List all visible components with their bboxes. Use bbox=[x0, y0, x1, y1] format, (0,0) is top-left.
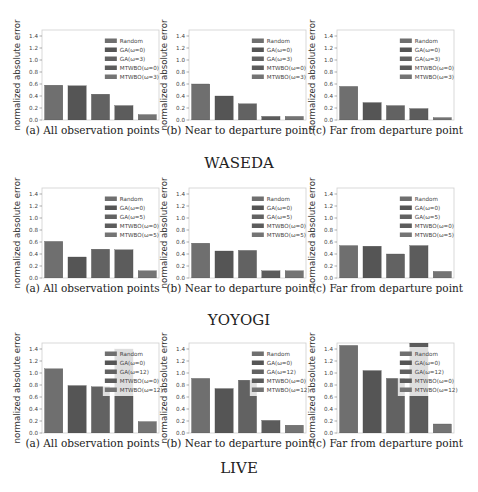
legend-swatch bbox=[400, 352, 412, 357]
legend-swatch bbox=[400, 57, 412, 62]
legend-label: GA(ω=0) bbox=[267, 360, 292, 366]
panel-caption: (a) All observation points bbox=[25, 282, 159, 294]
legend-label: MTWBO(ω=5) bbox=[267, 232, 306, 238]
y-tick-label: 0.8 bbox=[324, 382, 333, 388]
legend-label: GA(ω=0) bbox=[415, 205, 440, 211]
legend-swatch bbox=[105, 388, 117, 393]
y-tick-label: 1.4 bbox=[324, 346, 333, 352]
bar-mtwbo-3 bbox=[285, 116, 303, 120]
legend-label: MTWBO(ω=3) bbox=[267, 74, 306, 80]
chart-panel-yoyogi-c: 0.00.20.40.60.81.01.21.4normalized absol… bbox=[307, 177, 464, 294]
legend-label: MTWBO(ω=5) bbox=[415, 232, 454, 238]
legend-swatch bbox=[252, 361, 264, 366]
y-tick-label: 1.0 bbox=[176, 57, 185, 63]
y-tick-label: 1.4 bbox=[29, 191, 38, 197]
panel-caption: (a) All observation points bbox=[25, 124, 159, 136]
panel-caption: (c) Far from departure point bbox=[312, 124, 464, 136]
y-tick-label: 0.6 bbox=[324, 81, 333, 87]
y-tick-label: 1.2 bbox=[29, 358, 38, 364]
y-tick-label: 0.6 bbox=[29, 239, 38, 245]
legend-swatch bbox=[400, 361, 412, 366]
legend-label: GA(ω=5) bbox=[120, 214, 145, 220]
legend: RandomGA(ω=0)GA(ω=3)MTWBO(ω=0)MTWBO(ω=3) bbox=[250, 34, 306, 83]
bar-mtwbo-0 bbox=[262, 271, 280, 278]
y-tick-label: 1.4 bbox=[176, 191, 185, 197]
bar-mtwbo-3 bbox=[138, 115, 156, 120]
y-tick-label: 0.8 bbox=[176, 382, 185, 388]
y-tick-label: 1.4 bbox=[324, 33, 333, 39]
legend-swatch bbox=[252, 66, 264, 71]
y-tick-label: 0.2 bbox=[324, 263, 333, 269]
chart-panel-live-b: 0.00.20.40.60.81.01.21.4normalized absol… bbox=[159, 332, 313, 449]
legend-swatch bbox=[252, 370, 264, 375]
legend-swatch bbox=[105, 352, 117, 357]
legend-label: MTWBO(ω=12) bbox=[415, 387, 458, 393]
legend: RandomGA(ω=0)GA(ω=5)MTWBO(ω=0)MTWBO(ω=5) bbox=[250, 192, 306, 241]
y-tick-label: 0.4 bbox=[176, 93, 185, 99]
legend-swatch bbox=[105, 361, 117, 366]
legend-swatch bbox=[105, 370, 117, 375]
bar-ga-0 bbox=[215, 251, 233, 278]
bar-mtwbo-0 bbox=[115, 106, 133, 120]
legend-label: GA(ω=12) bbox=[267, 369, 296, 375]
y-axis-label: normalized absolute error bbox=[307, 332, 317, 443]
legend-label: GA(ω=3) bbox=[415, 56, 440, 62]
bar-mtwbo-12 bbox=[433, 424, 451, 433]
bar-ga-0 bbox=[68, 257, 86, 278]
legend-swatch bbox=[252, 388, 264, 393]
y-tick-label: 1.2 bbox=[324, 358, 333, 364]
panel-caption: (c) Far from departure point bbox=[312, 282, 464, 294]
legend-swatch bbox=[400, 388, 412, 393]
legend: RandomGA(ω=0)GA(ω=12)MTWBO(ω=0)MTWBO(ω=1… bbox=[398, 347, 458, 396]
legend-swatch bbox=[400, 48, 412, 53]
legend-swatch bbox=[105, 233, 117, 238]
legend-label: GA(ω=3) bbox=[267, 56, 292, 62]
y-tick-label: 0.8 bbox=[324, 227, 333, 233]
legend-swatch bbox=[105, 75, 117, 80]
bar-ga-5 bbox=[238, 250, 256, 278]
legend-label: GA(ω=0) bbox=[267, 47, 292, 53]
legend-label: MTWBO(ω=0) bbox=[120, 65, 159, 71]
legend-swatch bbox=[400, 370, 412, 375]
legend: RandomGA(ω=0)GA(ω=5)MTWBO(ω=0)MTWBO(ω=5) bbox=[398, 192, 454, 241]
legend-label: Random bbox=[267, 351, 290, 357]
legend-swatch bbox=[400, 224, 412, 229]
legend-label: GA(ω=0) bbox=[267, 205, 292, 211]
y-axis-label: normalized absolute error bbox=[12, 177, 22, 288]
group-title-live: LIVE bbox=[220, 459, 258, 477]
y-tick-label: 1.2 bbox=[176, 203, 185, 209]
legend-swatch bbox=[252, 206, 264, 211]
legend-swatch bbox=[400, 66, 412, 71]
legend-swatch bbox=[252, 48, 264, 53]
legend-swatch bbox=[105, 39, 117, 44]
bar-ga-3 bbox=[91, 94, 109, 120]
panel-caption: (c) Far from departure point bbox=[312, 437, 464, 449]
chart-panel-waseda-c: 0.00.20.40.60.81.01.21.4normalized absol… bbox=[307, 19, 464, 136]
panel-caption: (b) Near to departure point bbox=[166, 437, 313, 449]
y-tick-label: 0.8 bbox=[29, 382, 38, 388]
legend-label: GA(ω=5) bbox=[267, 214, 292, 220]
y-axis-label: normalized absolute error bbox=[159, 19, 169, 130]
group-title-waseda: WASEDA bbox=[204, 154, 274, 172]
y-tick-label: 1.4 bbox=[176, 33, 185, 39]
y-tick-label: 0.6 bbox=[176, 81, 185, 87]
y-tick-label: 1.4 bbox=[176, 346, 185, 352]
bar-mtwbo-5 bbox=[138, 271, 156, 278]
y-tick-label: 1.0 bbox=[29, 57, 38, 63]
y-tick-label: 1.0 bbox=[176, 215, 185, 221]
legend-label: GA(ω=0) bbox=[415, 47, 440, 53]
y-tick-label: 1.0 bbox=[324, 370, 333, 376]
group-title-yoyogi: YOYOGI bbox=[207, 311, 270, 329]
legend-swatch bbox=[252, 75, 264, 80]
legend-label: MTWBO(ω=12) bbox=[120, 387, 163, 393]
chart-panel-yoyogi-b: 0.00.20.40.60.81.01.21.4normalized absol… bbox=[159, 177, 313, 294]
y-tick-label: 0.6 bbox=[176, 394, 185, 400]
legend-label: GA(ω=0) bbox=[120, 360, 145, 366]
y-tick-label: 1.2 bbox=[176, 45, 185, 51]
y-tick-label: 0.4 bbox=[324, 93, 333, 99]
bar-ga-3 bbox=[386, 106, 404, 120]
y-tick-label: 0.4 bbox=[324, 251, 333, 257]
y-tick-label: 0.6 bbox=[29, 81, 38, 87]
y-tick-label: 0.0 bbox=[29, 430, 38, 436]
bar-mtwbo-0 bbox=[262, 420, 280, 433]
